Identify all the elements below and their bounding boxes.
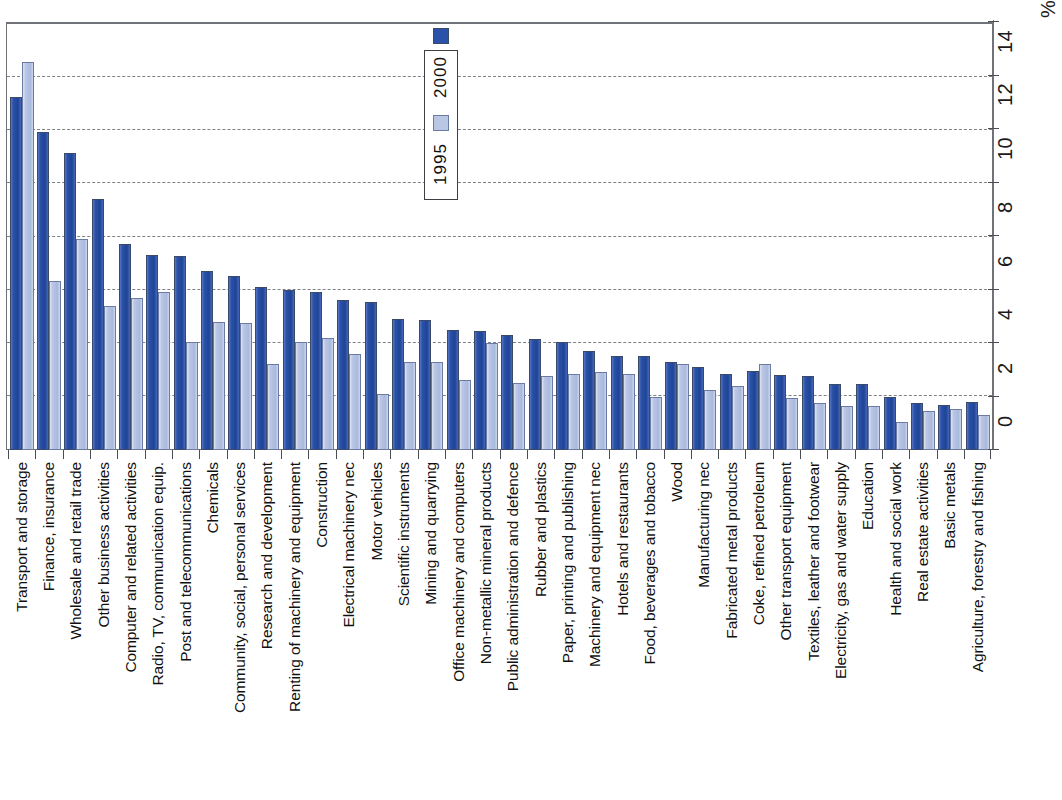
x-axis-category-label: Other business activities [95,462,113,628]
x-axis-label-cell: Rubber and plastics [527,462,554,792]
x-axis-label-cell: Education [855,462,882,792]
x-axis-category-label: Paper, printing and publishing [559,462,577,663]
y-axis-tick [988,342,999,343]
x-axis-category-label: Office machinery and computers [450,462,468,682]
bar-group [172,22,199,450]
x-axis-tick [500,450,527,459]
bar-group [336,22,363,450]
bar-1995 [704,390,716,450]
bar-1995 [896,422,908,450]
x-axis-tick [8,450,35,459]
bar-2000 [884,397,896,451]
bar-group [855,22,882,450]
x-axis-category-label: Education [859,462,877,530]
bar-group [8,22,35,450]
bar-2000 [392,319,404,450]
x-axis-tick [773,450,800,459]
bar-group [964,22,991,450]
bar-group [390,22,417,450]
bar-2000 [283,290,295,451]
legend-swatch-1995 [433,115,449,131]
x-axis-category-label: Fabricated metal products [723,462,741,639]
bar-1995 [677,364,689,450]
bar-group [472,22,499,450]
bar-1995 [349,354,361,450]
x-axis-category-label: Electrical machinery nec [340,462,358,628]
bar-1995 [950,409,962,450]
bar-2000 [174,256,186,450]
x-axis-label-cell: Hotels and restaurants [609,462,636,792]
x-axis-label-cell: Scientific instruments [390,462,417,792]
x-axis-category-label: Construction [313,462,331,548]
x-axis-tick [145,450,172,459]
x-axis-tick [691,450,718,459]
x-axis-category-label: Motor vehicles [368,462,386,561]
bar-1995 [595,372,607,450]
bar-1995 [759,364,771,450]
bar-2000 [92,199,104,450]
bar-1995 [541,376,553,450]
x-axis-label-cell: Chemicals [199,462,226,792]
bar-group [773,22,800,450]
chart-figure: 0246810121416 % Transport and storageFin… [0,0,1062,800]
bar-1995 [158,292,170,450]
bar-2000 [911,403,923,450]
bar-2000 [966,402,978,450]
y-axis-tick [988,396,999,397]
bar-group [937,22,964,450]
bar-1995 [322,338,334,450]
bar-group [35,22,62,450]
x-axis-category-label: Non-metallic mineral products [477,462,495,664]
x-axis-label-cell: Finance, insurance [35,462,62,792]
bar-group [664,22,691,450]
y-axis-unit-label: % [1037,0,1060,18]
bar-2000 [501,335,513,450]
x-axis-category-label: Public administration and defence [504,462,522,691]
y-axis-tick-label: 0 [994,415,1017,427]
x-axis-tick [609,450,636,459]
x-axis-tick [90,450,117,459]
x-axis-label-cell: Manufacturing nec [691,462,718,792]
bar-group [636,22,663,450]
x-axis-category-label: Rubber and plastics [532,462,550,597]
y-axis-tick-label: 14 [994,29,1017,52]
x-axis-tick [472,450,499,459]
y-axis-tick-label: 12 [994,83,1017,106]
x-axis-label-cell: Computer and related activities [117,462,144,792]
bar-1995 [131,298,143,450]
chart-legend: 19952000 [424,50,458,200]
bar-1995 [377,394,389,450]
bar-1995 [104,306,116,450]
x-axis-label-cell: Food, beverages and tobacco [636,462,663,792]
bar-1995 [22,62,34,450]
x-axis-category-label: Basic metals [941,462,959,549]
bar-1995 [76,239,88,450]
bar-1995 [49,281,61,450]
x-axis-tick [363,450,390,459]
bar-group [527,22,554,450]
bar-group [90,22,117,450]
bar-1995 [786,398,798,450]
x-axis-tick [199,450,226,459]
x-axis-category-label: Machinery and equipment nec [586,462,604,667]
bar-group [691,22,718,450]
x-axis-label-cell: Real estate activities [909,462,936,792]
y-axis-tick [988,235,999,236]
x-axis-tick [227,450,254,459]
x-axis-category-label: Mining and quarrying [422,462,440,605]
y-axis-tick [988,182,999,183]
x-axis-category-label: Finance, insurance [40,462,58,591]
x-axis-label-cell: Transport and storage [8,462,35,792]
bar-group [745,22,772,450]
x-axis-label-cell: Office machinery and computers [445,462,472,792]
x-axis-tick [35,450,62,459]
bar-1995 [459,380,471,450]
x-axis-tick [172,450,199,459]
bar-group [363,22,390,450]
bars-layer [6,22,993,450]
bar-1995 [841,406,853,450]
y-axis-tick-label: 10 [994,136,1017,159]
x-axis-category-label: Scientific instruments [395,462,413,606]
x-axis-category-label: Food, beverages and tobacco [641,462,659,664]
x-axis-tick [582,450,609,459]
